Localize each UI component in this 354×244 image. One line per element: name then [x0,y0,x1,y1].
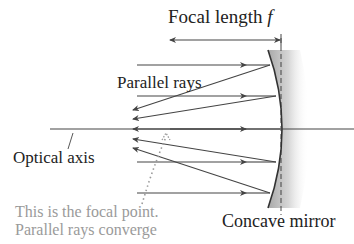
focal-point-note: This is the focal point. Parallel rays c… [15,203,159,239]
focal-length-label: Focal length f [168,7,272,26]
parallel-rays-label: Parallel rays [117,74,202,91]
optical-axis-leader [68,133,73,149]
concave-mirror-label: Concave mirror [222,212,335,230]
focal-length-symbol: f [267,6,272,27]
focal-length-arrow [170,34,281,46]
concave-mirror-diagram: Focal length f Parallel rays Optical axi… [0,0,354,244]
note-line-1: This is the focal point. [15,203,159,221]
concave-mirror [268,38,309,215]
note-line-2: Parallel rays converge [15,221,159,239]
focal-length-text: Focal length [168,6,267,27]
optical-axis-label: Optical axis [13,149,95,166]
